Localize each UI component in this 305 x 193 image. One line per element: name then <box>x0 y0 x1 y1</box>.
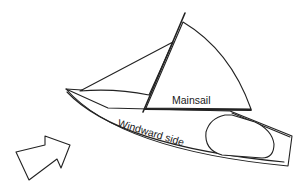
sailboat-diagram: Mainsail Windward side <box>0 0 305 193</box>
cockpit <box>206 115 274 158</box>
mainsail-label: Mainsail <box>172 94 211 106</box>
wind-direction-arrow <box>16 136 70 180</box>
boom <box>145 109 251 110</box>
